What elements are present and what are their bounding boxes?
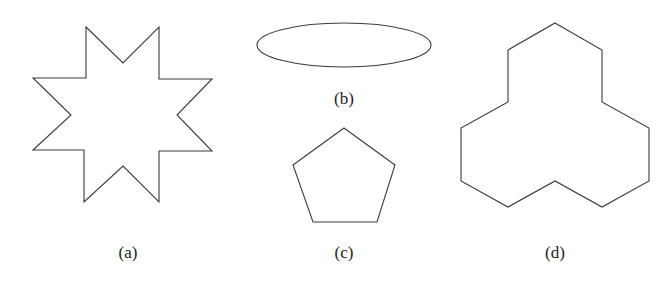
label-c: (c) xyxy=(335,243,354,263)
label-a: (a) xyxy=(119,243,138,263)
trefoil-polygon-shape xyxy=(461,23,649,207)
ellipse-shape xyxy=(257,23,431,67)
pentagon-shape xyxy=(293,128,395,222)
label-b: (b) xyxy=(334,89,354,109)
label-d: (d) xyxy=(545,243,565,263)
star-shape xyxy=(33,27,212,202)
figure-canvas: (a) (b) (c) (d) xyxy=(0,0,667,285)
shapes-svg xyxy=(0,0,667,285)
